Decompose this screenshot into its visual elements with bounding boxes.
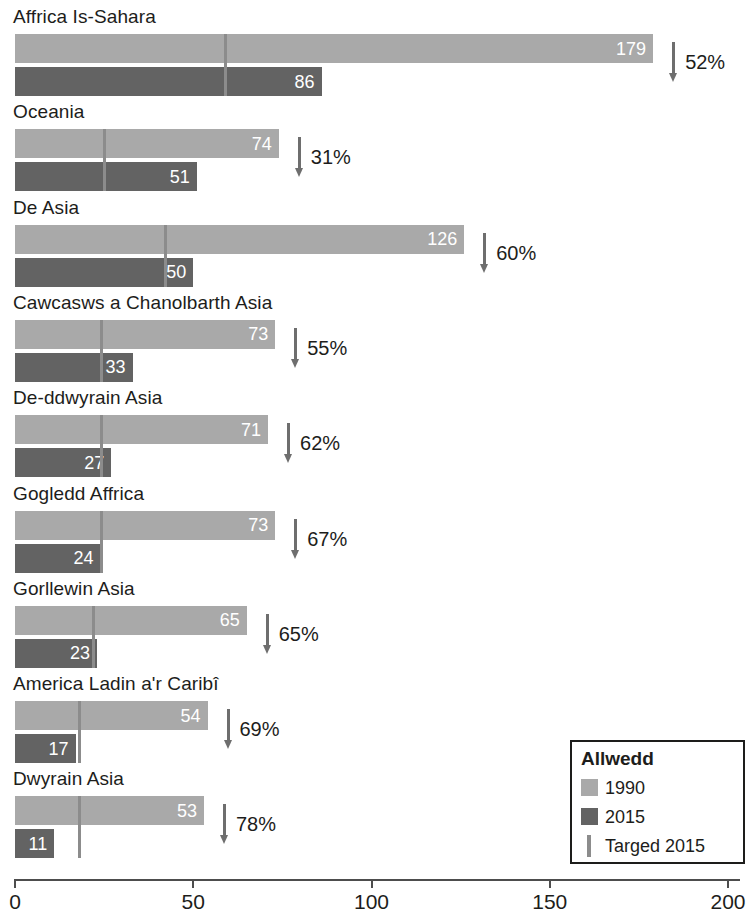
down-arrow-icon <box>282 423 294 463</box>
down-arrow-icon <box>261 614 273 654</box>
change-annotation: 69% <box>222 709 280 749</box>
change-annotation: 65% <box>261 614 319 654</box>
bar-chart: Affrica Is-Sahara1798652%Oceania745131%D… <box>0 0 753 919</box>
change-annotation: 31% <box>293 137 351 177</box>
bar-1990[interactable]: 54 <box>15 701 208 730</box>
bar-value-2015: 50 <box>166 263 186 281</box>
bar-1990[interactable]: 126 <box>15 225 464 254</box>
target-2015-marker <box>78 701 81 763</box>
legend-item[interactable]: 2015 <box>581 802 735 831</box>
bar-2015[interactable]: 23 <box>15 639 97 668</box>
group-label: De Asia <box>13 197 79 219</box>
bar-track-2015: 24 <box>0 544 753 573</box>
change-percent-label: 69% <box>240 719 280 739</box>
axis-tick <box>371 879 373 888</box>
group-label: Gogledd Affrica <box>13 483 144 505</box>
change-percent-label: 78% <box>236 814 276 834</box>
legend-swatch-2015 <box>581 808 598 825</box>
change-percent-label: 55% <box>307 338 347 358</box>
change-annotation: 60% <box>478 233 536 273</box>
legend-item[interactable]: 1990 <box>581 773 735 802</box>
axis-tick-label: 50 <box>182 891 205 913</box>
bar-value-1990: 73 <box>248 516 268 534</box>
chart-group: Cawcasws a Chanolbarth Asia733355% <box>0 292 753 376</box>
chart-group: De-ddwyrain Asia712762% <box>0 387 753 471</box>
bar-2015[interactable]: 33 <box>15 353 133 382</box>
group-label: Cawcasws a Chanolbarth Asia <box>13 292 272 314</box>
bar-value-1990: 53 <box>177 802 197 820</box>
down-arrow-icon <box>478 233 490 273</box>
bar-value-2015: 51 <box>170 168 190 186</box>
bar-track-2015: 23 <box>0 639 753 668</box>
legend-item-label: 1990 <box>605 778 645 798</box>
bar-1990[interactable]: 53 <box>15 796 204 825</box>
bar-value-2015: 11 <box>29 835 48 853</box>
down-arrow-icon <box>289 328 301 368</box>
target-2015-marker <box>100 415 103 477</box>
legend-item-label: 2015 <box>605 807 645 827</box>
bar-value-1990: 126 <box>427 230 457 248</box>
change-percent-label: 62% <box>300 433 340 453</box>
bar-track-1990: 73 <box>0 320 753 349</box>
chart-group: De Asia1265060% <box>0 197 753 281</box>
change-annotation: 78% <box>218 804 276 844</box>
change-percent-label: 60% <box>496 243 536 263</box>
bar-value-2015: 17 <box>49 740 69 758</box>
chart-group: Gogledd Affrica732467% <box>0 483 753 567</box>
bar-track-2015: 33 <box>0 353 753 382</box>
bar-2015[interactable]: 17 <box>15 734 76 763</box>
group-label: Gorllewin Asia <box>13 578 135 600</box>
bar-2015[interactable]: 27 <box>15 448 111 477</box>
bar-2015[interactable]: 86 <box>15 67 322 96</box>
axis-tick <box>549 879 551 888</box>
bar-track-1990: 74 <box>0 129 753 158</box>
bar-value-1990: 71 <box>241 421 261 439</box>
change-annotation: 62% <box>282 423 340 463</box>
bar-1990[interactable]: 73 <box>15 511 275 540</box>
axis-tick <box>727 879 729 888</box>
legend-items: 19902015Targed 2015 <box>581 773 735 860</box>
down-arrow-icon <box>667 42 679 82</box>
bar-value-1990: 179 <box>616 40 646 58</box>
bar-1990[interactable]: 71 <box>15 415 268 444</box>
target-2015-marker <box>164 225 167 287</box>
bar-1990[interactable]: 74 <box>15 129 279 158</box>
change-percent-label: 52% <box>685 52 725 72</box>
bar-track-1990: 71 <box>0 415 753 444</box>
axis-tick-label: 200 <box>710 891 745 913</box>
bar-2015[interactable]: 11 <box>15 829 54 858</box>
legend-item-label: Targed 2015 <box>605 836 705 856</box>
target-2015-marker <box>78 796 81 858</box>
target-2015-marker <box>100 320 103 382</box>
bar-value-1990: 73 <box>248 325 268 343</box>
bar-track-2015: 86 <box>0 67 753 96</box>
group-label: America Ladin a'r Caribî <box>13 673 219 695</box>
legend-title: Allwedd <box>581 748 735 770</box>
axis-tick <box>14 879 16 888</box>
chart-group: Gorllewin Asia652365% <box>0 578 753 662</box>
x-axis-line <box>15 879 740 881</box>
down-arrow-icon <box>293 137 305 177</box>
bar-value-2015: 23 <box>70 644 90 662</box>
down-arrow-icon <box>289 519 301 559</box>
bar-1990[interactable]: 65 <box>15 606 247 635</box>
bar-track-2015: 27 <box>0 448 753 477</box>
change-annotation: 67% <box>289 519 347 559</box>
axis-tick-label: 0 <box>9 891 21 913</box>
bar-value-2015: 24 <box>74 549 94 567</box>
bar-1990[interactable]: 73 <box>15 320 275 349</box>
change-annotation: 52% <box>667 42 725 82</box>
target-2015-marker <box>92 606 95 668</box>
legend-item[interactable]: Targed 2015 <box>581 831 735 860</box>
bar-track-1990: 126 <box>0 225 753 254</box>
chart-group: Affrica Is-Sahara1798652% <box>0 6 753 90</box>
bar-2015[interactable]: 24 <box>15 544 101 573</box>
bar-track-1990: 54 <box>0 701 753 730</box>
target-2015-marker <box>100 511 103 573</box>
change-percent-label: 65% <box>279 624 319 644</box>
target-2015-marker <box>224 34 227 96</box>
bar-1990[interactable]: 179 <box>15 34 653 63</box>
chart-group: Oceania745131% <box>0 101 753 185</box>
bar-value-1990: 65 <box>220 611 240 629</box>
group-label: Affrica Is-Sahara <box>13 6 156 28</box>
